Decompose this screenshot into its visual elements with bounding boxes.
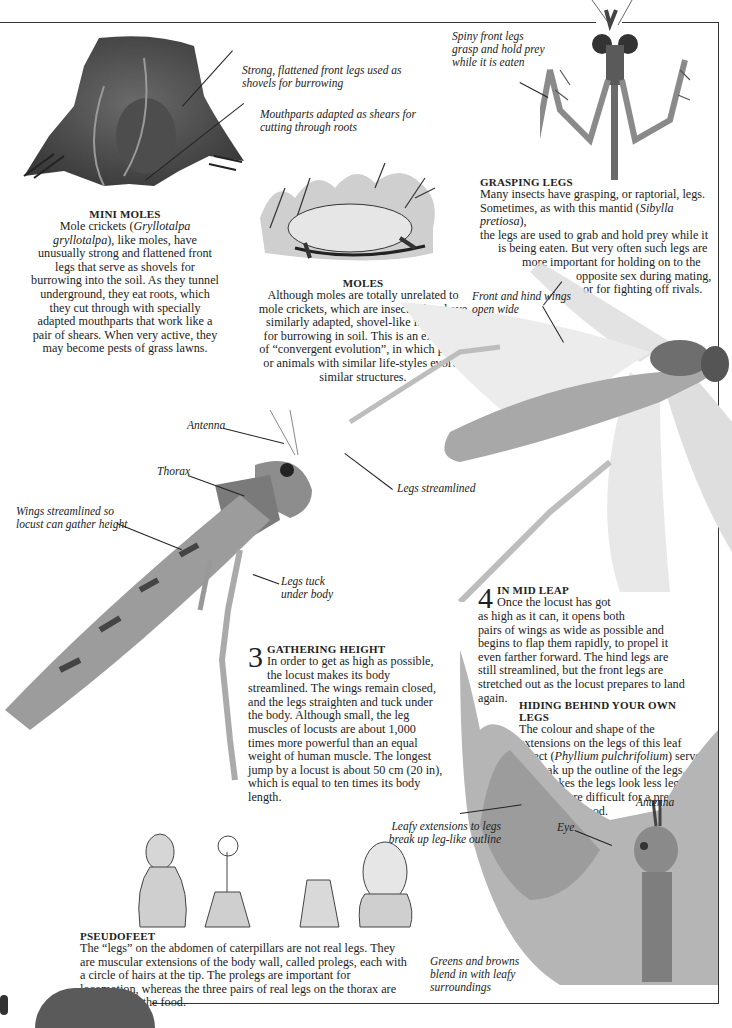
grasping-line: Many insects have grasping, or raptorial… <box>480 188 712 202</box>
frame-top-rule <box>0 22 596 23</box>
mini-moles-body: Mole crickets (Gryllotalpa gryllotalpa),… <box>30 220 220 356</box>
caption-antenna-leaf: Antenna <box>636 796 674 809</box>
caption-legs-tuck: Legs tuck under body <box>281 575 341 601</box>
bleed-image-fragment <box>0 995 8 1015</box>
gathering-height-section: 3 GATHERING HEIGHT In order to get as hi… <box>248 643 444 805</box>
mini-moles-section: MINI MOLES Mole crickets (Gryllotalpa gr… <box>30 208 220 356</box>
caption-mouthparts: Mouthparts adapted as shears for cutting… <box>260 108 440 134</box>
caption-front-legs: Strong, flattened front legs used as sho… <box>242 64 422 90</box>
step-number: 4 <box>478 586 493 610</box>
caption-wings-streamlined: Wings streamlined so locust can gather h… <box>16 505 136 531</box>
mid-leap-line: as high as it can, it opens both <box>478 610 688 624</box>
body-text: Sometimes, as with this mantid ( <box>480 201 640 215</box>
caption-antenna: Antenna <box>187 419 225 432</box>
grasping-line: Sometimes, as with this mantid (Sibylla … <box>480 202 712 229</box>
mole-engraving <box>255 158 440 273</box>
mole-cricket-illustration <box>4 36 254 186</box>
grasping-line: the legs are used to grab and hold prey … <box>480 229 712 243</box>
body-text: Mole crickets ( <box>60 219 134 233</box>
caption-legs-streamlined: Legs streamlined <box>397 482 507 495</box>
caption-spiny-legs: Spiny front legs grasp and hold prey whi… <box>452 30 547 69</box>
caption-thorax: Thorax <box>157 465 190 478</box>
body-text: ), like moles, have unusually strong and… <box>31 233 219 356</box>
mid-leap-line: Once the locust has got <box>478 596 688 610</box>
caption-eye: Eye <box>557 821 574 834</box>
step-number: 3 <box>248 645 263 669</box>
grasping-line: is being eaten. But very often such legs… <box>480 242 712 256</box>
mantid-illustration <box>540 0 730 180</box>
gathering-height-body: In order to get as high as possible, the… <box>248 655 444 805</box>
caption-greens-browns: Greens and browns blend in with leafy su… <box>430 955 520 994</box>
bleed-image-fragment <box>35 988 155 1028</box>
body-text: ), <box>520 214 527 228</box>
prolegs-illustration <box>135 832 415 932</box>
caption-wings-open: Front and hind wings open wide <box>472 290 582 316</box>
